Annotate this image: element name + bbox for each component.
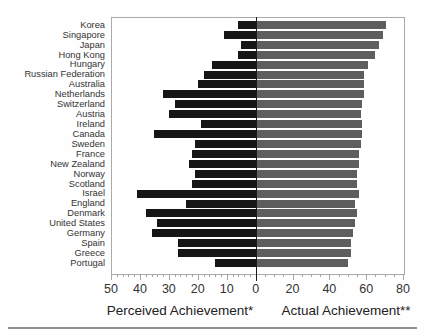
minor-tick: [375, 274, 376, 277]
country-label: New Zealand: [0, 160, 105, 169]
zero-axis-line: [256, 17, 257, 281]
bar-row: [112, 110, 404, 118]
minor-tick: [265, 274, 266, 277]
minor-tick: [204, 274, 205, 277]
minor-tick: [163, 274, 164, 277]
minor-tick: [320, 274, 321, 277]
actual-bar: [256, 180, 357, 188]
perceived-bar: [154, 130, 255, 138]
perceived-bar: [178, 239, 256, 247]
minor-tick: [117, 274, 118, 277]
country-label: Australia: [0, 80, 105, 89]
bar-row: [112, 239, 404, 247]
minor-tick: [175, 274, 176, 277]
country-label: Ireland: [0, 120, 105, 129]
minor-tick: [221, 274, 222, 277]
minor-tick: [357, 274, 358, 277]
country-label: Germany: [0, 229, 105, 238]
actual-bar: [256, 259, 348, 267]
bar-row: [112, 90, 404, 98]
minor-tick: [209, 274, 210, 277]
major-tick: [140, 274, 141, 280]
right-axis-title: Actual Achievement**: [281, 303, 410, 318]
actual-bar: [256, 209, 357, 217]
country-label: Russian Federation: [0, 70, 105, 79]
bar-row: [112, 200, 404, 208]
perceived-bar: [238, 21, 255, 29]
actual-bar: [256, 170, 357, 178]
perceived-bar: [201, 120, 256, 128]
perceived-bar: [192, 150, 256, 158]
perceived-bar: [198, 80, 256, 88]
bar-row: [112, 21, 404, 29]
perceived-bar: [241, 41, 255, 49]
perceived-bar: [169, 110, 256, 118]
major-tick: [403, 274, 404, 280]
minor-tick: [238, 274, 239, 277]
minor-tick: [283, 274, 284, 277]
bar-row: [112, 31, 404, 39]
minor-tick: [128, 274, 129, 277]
bar-row: [112, 180, 404, 188]
actual-bar: [256, 120, 363, 128]
perceived-bar: [163, 90, 256, 98]
bar-row: [112, 219, 404, 227]
bar-row: [112, 140, 404, 148]
actual-bar: [256, 219, 355, 227]
country-label: Korea: [0, 21, 105, 30]
left-axis-title: Perceived Achievement*: [107, 303, 253, 318]
minor-tick: [157, 274, 158, 277]
tick-label: 40: [133, 282, 147, 296]
perceived-bar: [157, 219, 255, 227]
country-label: Denmark: [0, 209, 105, 218]
bar-row: [112, 100, 404, 108]
minor-tick: [152, 274, 153, 277]
minor-tick: [134, 274, 135, 277]
perceived-bar: [152, 229, 256, 237]
actual-bar: [256, 239, 352, 247]
actual-bar: [256, 41, 379, 49]
country-label: Canada: [0, 130, 105, 139]
actual-bar: [256, 150, 359, 158]
country-label: Singapore: [0, 31, 105, 40]
actual-bar: [256, 51, 376, 59]
achievement-chart: KoreaSingaporeJapanHong KongHungaryRussi…: [0, 0, 427, 335]
bar-row: [112, 120, 404, 128]
perceived-bar: [238, 51, 255, 59]
country-label: Netherlands: [0, 90, 105, 99]
bar-row: [112, 71, 404, 79]
perceived-bar: [178, 249, 256, 257]
country-label: Greece: [0, 249, 105, 258]
actual-bar: [256, 80, 365, 88]
bar-row: [112, 190, 404, 198]
bar-row: [112, 229, 404, 237]
country-label: United States: [0, 219, 105, 228]
minor-tick: [186, 274, 187, 277]
perceived-bar: [212, 61, 255, 69]
major-tick: [329, 274, 330, 280]
perceived-bar: [195, 140, 256, 148]
major-tick: [169, 274, 170, 280]
tick-label: 40: [322, 282, 336, 296]
tick-label: 60: [359, 282, 373, 296]
bar-row: [112, 51, 404, 59]
perceived-bar: [137, 190, 256, 198]
major-tick: [198, 274, 199, 280]
actual-bar: [256, 21, 387, 29]
bar-row: [112, 170, 404, 178]
actual-bar: [256, 140, 361, 148]
tick-label: 20: [191, 282, 205, 296]
tick-label: 20: [286, 282, 300, 296]
minor-tick: [244, 274, 245, 277]
minor-tick: [274, 274, 275, 277]
minor-tick: [192, 274, 193, 277]
bottom-rule: [8, 327, 417, 329]
bar-row: [112, 80, 404, 88]
bar-row: [112, 150, 404, 158]
minor-tick: [311, 274, 312, 277]
minor-tick: [233, 274, 234, 277]
minor-tick: [123, 274, 124, 277]
perceived-bar: [215, 259, 256, 267]
actual-bar: [256, 90, 365, 98]
minor-tick: [339, 274, 340, 277]
